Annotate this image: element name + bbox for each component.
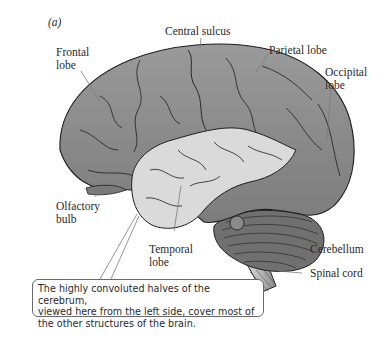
- caption-callout: The highly convoluted halves of the cere…: [32, 279, 264, 317]
- label-occipital-lobe: Occipital lobe: [325, 66, 367, 92]
- label-olfactory-bulb-line1: Olfactory: [56, 200, 100, 213]
- label-olfactory-bulb-line2: bulb: [56, 213, 100, 226]
- label-occipital-lobe-line1: Occipital: [325, 66, 367, 79]
- olfactory-bulb-shape: [86, 185, 126, 195]
- label-frontal-lobe-line1: Frontal: [56, 46, 89, 59]
- label-parietal-lobe: Parietal lobe: [269, 44, 327, 57]
- label-temporal-lobe-line1: Temporal: [149, 243, 193, 256]
- panel-label: (a): [48, 16, 61, 28]
- callout-line3: the other structures of the brain.: [38, 318, 258, 330]
- label-cerebellum: Cerebellum: [310, 243, 364, 256]
- label-central-sulcus: Central sulcus: [165, 25, 230, 38]
- label-temporal-lobe: Temporal lobe: [149, 243, 193, 269]
- callout-line2: viewed here from the left side, cover mo…: [38, 306, 258, 318]
- cerebellum-shape: [214, 210, 324, 271]
- label-frontal-lobe-line2: lobe: [56, 59, 89, 72]
- label-spinal-cord: Spinal cord: [310, 267, 363, 280]
- label-olfactory-bulb: Olfactory bulb: [56, 200, 100, 226]
- label-frontal-lobe: Frontal lobe: [56, 46, 89, 72]
- label-occipital-lobe-line2: lobe: [325, 79, 367, 92]
- callout-line1: The highly convoluted halves of the cere…: [38, 283, 258, 306]
- brain-diagram: (a) Central sulcus Frontal lobe Parietal…: [0, 0, 388, 339]
- label-temporal-lobe-line2: lobe: [149, 256, 193, 269]
